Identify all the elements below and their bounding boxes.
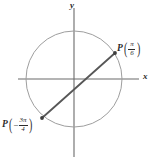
fraction-p1: π 6 — [128, 41, 135, 57]
minus-sign-icon: − — [13, 121, 18, 130]
point-label-p2-name: P — [2, 120, 8, 130]
point-label-p1-name: P — [117, 44, 123, 54]
terminal-line-segment — [42, 53, 115, 118]
right-paren-icon: ) — [137, 41, 140, 56]
point-label-p2: P ( − 3π 4 ) — [2, 117, 33, 133]
fraction-p2-numerator: 3π — [19, 117, 28, 125]
point-marker-p2 — [40, 116, 44, 120]
fraction-p1-numerator: π — [129, 41, 135, 49]
fraction-p1-denominator: 6 — [129, 50, 135, 58]
figure-canvas — [0, 0, 157, 163]
left-paren-icon: ( — [9, 117, 12, 132]
unit-circle-figure: x y P ( π 6 ) P ( − 3π 4 ) — [0, 0, 157, 163]
point-label-p1: P ( π 6 ) — [117, 41, 141, 57]
left-paren-icon: ( — [124, 41, 127, 56]
fraction-p2: 3π 4 — [19, 117, 28, 133]
y-axis-label: y — [70, 1, 74, 10]
x-axis-label: x — [143, 72, 148, 81]
fraction-p2-denominator: 4 — [20, 126, 26, 134]
right-paren-icon: ) — [29, 117, 32, 132]
